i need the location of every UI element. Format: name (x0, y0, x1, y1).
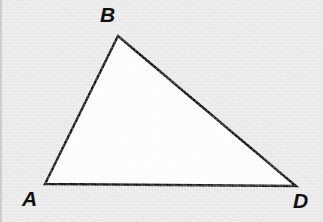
geometry-figure: A B D (0, 0, 323, 222)
vertex-label-a: A (22, 188, 37, 209)
triangle-shape (45, 36, 296, 186)
vertex-label-b: B (100, 4, 115, 25)
triangle-svg (0, 0, 323, 222)
vertex-label-d: D (293, 190, 308, 211)
